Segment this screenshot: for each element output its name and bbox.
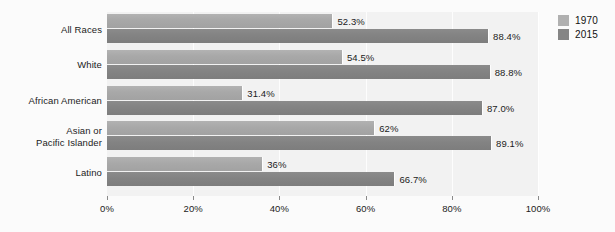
bar-value-label: 62% xyxy=(374,123,398,134)
legend-swatch-icon xyxy=(558,15,569,26)
bar-value-label: 36% xyxy=(262,159,286,170)
bar-1970[interactable] xyxy=(107,157,263,171)
category-label: African American xyxy=(0,95,102,107)
x-axis-tick-label: 100% xyxy=(526,203,551,214)
category-label-line: Asian or xyxy=(0,125,102,137)
x-axis-tick xyxy=(279,196,280,200)
x-axis-tick xyxy=(193,196,194,200)
bar-value-label: 66.7% xyxy=(394,174,426,185)
x-axis-tick xyxy=(452,196,453,200)
chart-legend: 19702015 xyxy=(558,14,598,42)
bar-value-label: 88.4% xyxy=(488,30,520,41)
bar-row-2015: 88.4% xyxy=(107,29,538,43)
bar-row-1970: 52.3% xyxy=(107,14,538,28)
bar-1970[interactable] xyxy=(107,14,333,28)
legend-item-1970[interactable]: 1970 xyxy=(558,14,598,27)
legend-label: 1970 xyxy=(575,15,598,26)
bars-layer: 52.3%88.4%54.5%88.8%31.4%87.0%62%89.1%36… xyxy=(107,12,538,196)
x-axis: 0%20%40%60%80%100% xyxy=(107,196,538,220)
category-label: Latino xyxy=(0,167,102,179)
bar-group: 52.3%88.4% xyxy=(107,14,538,45)
bar-2015[interactable] xyxy=(107,65,491,79)
bar-value-label: 88.8% xyxy=(490,66,522,77)
bar-group: 31.4%87.0% xyxy=(107,86,538,117)
x-axis-tick xyxy=(366,196,367,200)
bar-chart-figure: All RacesWhiteAfrican AmericanAsian orPa… xyxy=(0,0,615,232)
bar-row-1970: 31.4% xyxy=(107,86,538,100)
category-label-line: Pacific Islander xyxy=(0,137,102,149)
bar-1970[interactable] xyxy=(107,121,375,135)
bar-row-2015: 88.8% xyxy=(107,65,538,79)
category-axis: All RacesWhiteAfrican AmericanAsian orPa… xyxy=(0,12,102,196)
bar-value-label: 89.1% xyxy=(491,138,523,149)
legend-item-2015[interactable]: 2015 xyxy=(558,28,598,41)
bar-row-2015: 89.1% xyxy=(107,136,538,150)
category-label: Asian orPacific Islander xyxy=(0,125,102,148)
bar-1970[interactable] xyxy=(107,50,343,64)
bar-value-label: 52.3% xyxy=(332,15,364,26)
bar-2015[interactable] xyxy=(107,29,489,43)
bar-2015[interactable] xyxy=(107,136,492,150)
bar-1970[interactable] xyxy=(107,86,243,100)
bar-group: 36%66.7% xyxy=(107,157,538,188)
x-axis-tick xyxy=(107,196,108,200)
bar-row-1970: 54.5% xyxy=(107,50,538,64)
bar-2015[interactable] xyxy=(107,101,483,115)
bar-row-2015: 66.7% xyxy=(107,172,538,186)
bar-value-label: 87.0% xyxy=(482,102,514,113)
bar-group: 54.5%88.8% xyxy=(107,50,538,81)
x-axis-tick xyxy=(538,196,539,200)
gridline xyxy=(538,12,539,196)
x-axis-tick-label: 60% xyxy=(356,203,375,214)
bar-value-label: 31.4% xyxy=(242,87,274,98)
bar-2015[interactable] xyxy=(107,172,395,186)
x-axis-tick-label: 80% xyxy=(442,203,461,214)
x-axis-tick-label: 40% xyxy=(270,203,289,214)
x-axis-tick-label: 20% xyxy=(184,203,203,214)
category-label-line: African American xyxy=(0,95,102,107)
bar-value-label: 54.5% xyxy=(342,51,374,62)
bar-group: 62%89.1% xyxy=(107,121,538,152)
category-label: White xyxy=(0,59,102,71)
category-label-line: White xyxy=(0,59,102,71)
plot-panel: 52.3%88.4%54.5%88.8%31.4%87.0%62%89.1%36… xyxy=(107,12,538,196)
category-label-line: All Races xyxy=(0,24,102,36)
category-label: All Races xyxy=(0,24,102,36)
category-label-line: Latino xyxy=(0,167,102,179)
legend-swatch-icon xyxy=(558,29,569,40)
bar-row-2015: 87.0% xyxy=(107,101,538,115)
x-axis-tick-label: 0% xyxy=(100,203,114,214)
legend-label: 2015 xyxy=(575,29,598,40)
bar-row-1970: 62% xyxy=(107,121,538,135)
bar-row-1970: 36% xyxy=(107,157,538,171)
